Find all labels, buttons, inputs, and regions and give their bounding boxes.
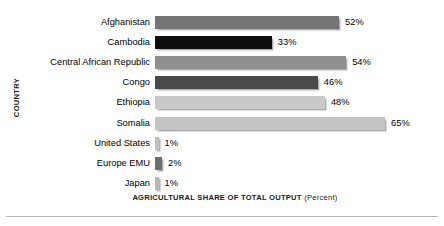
bar-row: Afghanistan52% [34, 12, 436, 32]
bar-value-label: 1% [159, 178, 178, 189]
bar-value-label: 33% [272, 37, 297, 48]
bar-track: 46% [155, 73, 436, 93]
bar [155, 56, 346, 69]
bar-track: 1% [155, 174, 436, 194]
category-label: Central African Republic [34, 57, 155, 68]
bar [155, 76, 318, 89]
agricultural-share-bar-chart: COUNTRY Afghanistan52%Cambodia33%Central… [0, 0, 444, 226]
bar-value-label: 48% [325, 97, 350, 108]
bar [155, 157, 162, 170]
category-label: Europe EMU [34, 158, 155, 169]
bar-track: 2% [155, 153, 436, 173]
bar-track: 52% [155, 12, 436, 32]
category-label: Afghanistan [34, 17, 155, 28]
bar [155, 117, 385, 130]
x-axis-title: AGRICULTURAL SHARE OF TOTAL OUTPUT (Perc… [34, 193, 436, 202]
bar [155, 36, 272, 49]
x-axis-title-label: AGRICULTURAL SHARE OF TOTAL OUTPUT [132, 193, 301, 202]
bar-row: Europe EMU2% [34, 153, 436, 173]
category-label: Cambodia [34, 37, 155, 48]
bar-value-label: 2% [162, 158, 181, 169]
bar-track: 54% [155, 52, 436, 72]
bar-row: Congo46% [34, 73, 436, 93]
bar-track: 1% [155, 133, 436, 153]
x-axis-title-unit: (Percent) [304, 193, 337, 202]
bar-value-label: 46% [318, 77, 343, 88]
bar-track: 48% [155, 93, 436, 113]
bar [155, 16, 339, 29]
bar-row: Cambodia33% [34, 32, 436, 52]
category-label: Japan [34, 178, 155, 189]
bar-row: Somalia65% [34, 113, 436, 133]
bar-track: 65% [155, 113, 436, 133]
plot-area: Afghanistan52%Cambodia33%Central African… [34, 9, 436, 191]
bar [155, 96, 325, 109]
bar-value-label: 52% [339, 17, 364, 28]
y-axis-title-label: COUNTRY [13, 78, 22, 117]
category-label: Ethiopia [34, 97, 155, 108]
category-label: Somalia [34, 118, 155, 129]
bar-value-label: 1% [159, 138, 178, 149]
y-axis-title: COUNTRY [0, 0, 34, 195]
bar-value-label: 54% [346, 57, 371, 68]
bar-row: Ethiopia48% [34, 93, 436, 113]
category-label: United States [34, 138, 155, 149]
bar-value-label: 65% [385, 118, 410, 129]
bar-row: Japan1% [34, 174, 436, 194]
category-label: Congo [34, 77, 155, 88]
bottom-divider [6, 216, 438, 217]
bar-track: 33% [155, 32, 436, 52]
bar-row: United States1% [34, 133, 436, 153]
bar-row: Central African Republic54% [34, 52, 436, 72]
